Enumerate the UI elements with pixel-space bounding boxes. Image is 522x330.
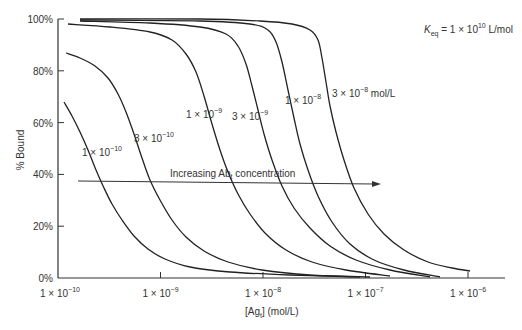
curve-labels: 1 × 10−103 × 10−101 × 10−93 × 10−91 × 10… [82,86,396,158]
curve-label: 3 × 10−9 [232,109,268,122]
x-tick-label: 1 × 10−7 [348,286,384,299]
y-tick-label: 100% [27,14,53,25]
increasing-concentration-arrow: Increasing Abt concentration [78,168,381,187]
binding-curve [80,19,470,271]
x-tick-label: 1 × 10−10 [40,286,80,299]
y-tick-label: 80% [33,66,53,77]
x-tick-label: 1 × 10−9 [143,286,179,299]
y-tick-label: 20% [33,221,53,232]
curve-label: 1 × 10−9 [186,107,222,120]
binding-curve [80,20,440,277]
curve-label: 3 × 10−10 [134,131,174,144]
x-axis-ticks: 1 × 10−101 × 10−91 × 10−81 × 10−71 × 10−… [40,272,486,299]
curve-label: 3 × 10−8 mol/L [332,86,396,99]
keq-annotation: Keq = 1 × 1010 L/mol [424,22,513,38]
x-axis-label: [Agt] (mol/L) [245,306,299,319]
binding-curve [66,53,370,277]
arrow-label: Increasing Abt concentration [170,168,295,180]
x-tick-label: 1 × 10−6 [450,286,486,299]
y-tick-label: 40% [33,169,53,180]
binding-curve-chart: 0%20%40%60%80%100% 1 × 10−101 × 10−91 × … [0,0,522,330]
arrow-head-icon [372,181,381,187]
curve-series [64,19,470,277]
curve-label: 1 × 10−8 [285,93,321,106]
y-axis-label: % Bound [15,130,26,171]
y-tick-label: 60% [33,118,53,129]
binding-curve [80,21,430,277]
curve-label: 1 × 10−10 [82,145,122,158]
x-tick-label: 1 × 10−8 [245,286,281,299]
y-tick-label: 0% [39,273,54,284]
